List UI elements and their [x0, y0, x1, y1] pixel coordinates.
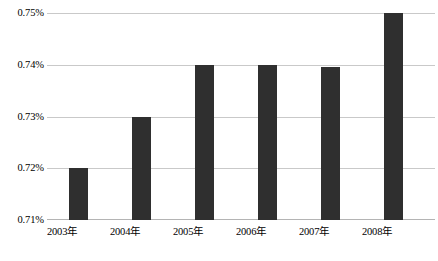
- gridline-074: [47, 65, 435, 66]
- bar-2006: [258, 65, 277, 220]
- gridline-071-baseline: [47, 219, 435, 220]
- y-tick-label: 0.73%: [0, 112, 44, 123]
- y-axis: 0.75% 0.74% 0.73% 0.72% 0.71%: [0, 13, 44, 220]
- bar-2004: [132, 117, 151, 221]
- y-tick-label: 0.71%: [0, 215, 44, 226]
- bar-2008: [384, 13, 403, 220]
- y-tick-label: 0.74%: [0, 60, 44, 71]
- x-tick-label: 2003年: [38, 226, 86, 237]
- bar-2003: [69, 168, 88, 220]
- bar-2007: [321, 67, 340, 220]
- gridline-075: [47, 13, 435, 14]
- x-tick-label: 2005年: [164, 226, 212, 237]
- x-tick-label: 2004年: [101, 226, 149, 237]
- x-tick-label: 2006年: [227, 226, 275, 237]
- bar-2005: [195, 65, 214, 220]
- y-tick-label: 0.75%: [0, 8, 44, 19]
- plot-area: [47, 13, 435, 220]
- gridline-073: [47, 117, 435, 118]
- x-tick-label: 2007年: [290, 226, 338, 237]
- x-tick-label: 2008年: [353, 226, 401, 237]
- y-tick-label: 0.72%: [0, 163, 44, 174]
- gridline-072: [47, 168, 435, 169]
- bar-chart: 0.75% 0.74% 0.73% 0.72% 0.71% 2003年 2004…: [0, 0, 438, 261]
